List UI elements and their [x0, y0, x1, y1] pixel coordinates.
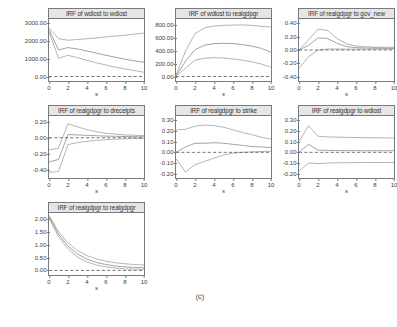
y-axis-tick-label: 1000.00 [25, 56, 49, 62]
irf-curves [299, 19, 394, 81]
x-axis-tick-label: 8 [250, 178, 253, 188]
panel-title: IRF of realgdpgr to gov_new [298, 8, 395, 19]
panel-title: IRF of realgdpgr to realgdpgr [48, 202, 145, 213]
irf-panel: IRF of realgdpgr to gov_new0.400.200.00-… [268, 8, 396, 105]
x-axis-label: s [95, 91, 98, 97]
y-axis-tick-label: -0.20 [283, 171, 299, 177]
x-axis-tick-label: 0 [47, 275, 50, 285]
irf-panel: IRF of wdlost to realgdpgr800.00600.0040… [145, 8, 273, 105]
y-axis-tick-label: 0.40 [285, 20, 299, 26]
x-axis-tick-label: 0 [174, 178, 177, 188]
panel-title: IRF of realgdpgr to wdlost [298, 105, 395, 116]
x-axis-tick-label: 6 [104, 81, 107, 91]
x-axis-tick-label: 0 [47, 178, 50, 188]
x-axis-tick-label: 6 [104, 275, 107, 285]
y-axis-tick-label: 0.00 [285, 47, 299, 53]
series-line-lower [49, 138, 144, 172]
x-axis-tick-label: 6 [354, 81, 357, 91]
y-axis-tick-label: 0.10 [285, 139, 299, 145]
y-axis-tick-label: -0.40 [283, 74, 299, 80]
figure-caption: (c) [150, 292, 250, 301]
series-line-lower [299, 49, 394, 68]
y-axis-tick-label: 0.00 [285, 149, 299, 155]
x-axis-tick-label: 4 [212, 178, 215, 188]
y-axis-tick-label: 600.00 [155, 35, 176, 41]
irf-curves [299, 116, 394, 178]
x-axis-tick-label: 6 [104, 178, 107, 188]
y-axis-tick-label: 2.00 [35, 216, 49, 222]
plot-area: 0.400.200.00-0.20-0.400246810s [298, 19, 395, 82]
x-axis-label: s [345, 91, 348, 97]
panel-title: IRF of wdlost to wdlost [48, 8, 145, 19]
x-axis-tick-label: 4 [85, 275, 88, 285]
y-axis-tick-label: 0.20 [285, 128, 299, 134]
x-axis-tick-label: 2 [193, 81, 196, 91]
y-axis-tick-label: 1.50 [35, 229, 49, 235]
y-axis-tick-label: 3000.00 [25, 20, 49, 26]
y-axis-tick-label: -0.10 [283, 160, 299, 166]
y-axis-tick-label: 0.30 [162, 117, 176, 123]
series-line-lower [176, 58, 271, 77]
y-axis-tick-label: -0.20 [283, 60, 299, 66]
x-axis-label: s [345, 188, 348, 194]
irf-curves [176, 116, 271, 178]
plot-area: 800.00600.00400.00200.000.000246810s [175, 19, 272, 82]
panel-title: IRF of realgdpgr to strike [175, 105, 272, 116]
y-axis-tick-label: 2000.00 [25, 38, 49, 44]
series-line-upper [176, 25, 271, 75]
y-axis-tick-label: 0.20 [35, 119, 49, 125]
irf-panel: IRF of realgdpgr to strike0.300.200.100.… [145, 105, 273, 202]
y-axis-tick-label: 0.00 [162, 74, 176, 80]
y-axis-tick-label: 1.00 [35, 242, 49, 248]
series-line-estimate [176, 143, 271, 153]
plot-area: 0.300.200.100.00-0.10-0.200246810s [175, 116, 272, 179]
x-axis-tick-label: 0 [174, 81, 177, 91]
y-axis-tick-label: -0.40 [33, 167, 49, 173]
plot-area: 0.300.200.100.00-0.10-0.200246810s [298, 116, 395, 179]
y-axis-tick-label: 0.00 [162, 149, 176, 155]
x-axis-tick-label: 4 [85, 178, 88, 188]
y-axis-tick-label: 0.10 [162, 139, 176, 145]
irf-panel: IRF of realgdpgr to realgdpgr2.001.501.0… [18, 202, 146, 299]
x-axis-label: s [222, 188, 225, 194]
x-axis-tick-label: 10 [391, 81, 397, 91]
irf-curves [49, 19, 144, 81]
x-axis-label: s [95, 285, 98, 291]
series-line-estimate [299, 144, 394, 152]
x-axis-tick-label: 10 [141, 275, 148, 285]
y-axis-tick-label: 0.30 [285, 117, 299, 123]
y-axis-tick-label: 800.00 [155, 22, 176, 28]
x-axis-tick-label: 2 [66, 81, 69, 91]
x-axis-tick-label: 0 [297, 178, 300, 188]
x-axis-tick-label: 6 [231, 178, 234, 188]
x-axis-tick-label: 4 [212, 81, 215, 91]
y-axis-tick-label: -0.20 [33, 151, 49, 157]
series-line-lower [49, 218, 144, 269]
y-axis-tick-label: 0.20 [162, 128, 176, 134]
series-line-lower [299, 163, 394, 172]
series-line-upper [299, 126, 394, 142]
y-axis-tick-label: -0.20 [160, 171, 176, 177]
x-axis-tick-label: 8 [373, 81, 376, 91]
x-axis-tick-label: 2 [316, 81, 319, 91]
series-line-upper [176, 125, 271, 139]
panel-title: IRF of realgdpgr to drecelpts [48, 105, 145, 116]
x-axis-tick-label: 0 [297, 81, 300, 91]
y-axis-tick-label: 200.00 [155, 61, 176, 67]
panel-title: IRF of wdlost to realgdpgr [175, 8, 272, 19]
x-axis-label: s [222, 91, 225, 97]
plot-area: 2.001.501.000.500.000246810s [48, 213, 145, 276]
x-axis-tick-label: 8 [123, 81, 126, 91]
x-axis-label: s [95, 188, 98, 194]
y-axis-tick-label: 0.00 [35, 135, 49, 141]
irf-panel: IRF of realgdpgr to wdlost0.300.200.100.… [268, 105, 396, 202]
series-line-estimate [176, 43, 271, 76]
irf-curves [49, 116, 144, 178]
y-axis-tick-label: -0.10 [160, 160, 176, 166]
series-line-upper [49, 28, 144, 40]
x-axis-tick-label: 8 [123, 275, 126, 285]
x-axis-tick-label: 8 [373, 178, 376, 188]
irf-panel: IRF of wdlost to wdlost3000.002000.00100… [18, 8, 146, 105]
x-axis-tick-label: 6 [231, 81, 234, 91]
